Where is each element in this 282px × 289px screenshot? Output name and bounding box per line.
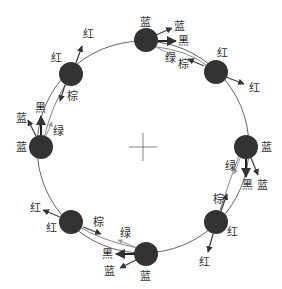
arrow-label: 绿 bbox=[53, 124, 64, 138]
node-n1: 蓝 蓝 黑 绿 棕 bbox=[134, 16, 189, 71]
arrow-label: 绿 bbox=[225, 159, 236, 173]
node-n3-dot bbox=[234, 135, 258, 159]
diagram-canvas: 蓝 蓝 黑 绿 棕 红 红 蓝 绿 黑 蓝 红 棕 红 蓝 bbox=[0, 0, 282, 289]
node-n4-label: 红 bbox=[227, 226, 238, 239]
arrow-label: 红 bbox=[83, 28, 94, 41]
arrow-label: 红 bbox=[249, 82, 260, 95]
arrow-label: 黑 bbox=[242, 179, 253, 192]
node-n8-dot bbox=[59, 62, 83, 86]
arrow-label: 蓝 bbox=[257, 179, 268, 192]
arrow-label: 红 bbox=[199, 256, 210, 269]
node-n6-dot bbox=[59, 210, 83, 234]
arrow-label: 棕 bbox=[213, 192, 224, 206]
arrow-icon bbox=[118, 240, 135, 247]
arrow-label: 棕 bbox=[67, 89, 78, 103]
node-n4-dot bbox=[204, 210, 228, 234]
arrow-icon bbox=[208, 234, 213, 252]
arrow-label: 黑 bbox=[102, 248, 113, 261]
arrow-label: 绿 bbox=[165, 51, 176, 65]
node-n3-label: 蓝 bbox=[261, 141, 272, 154]
arrow-label: 棕 bbox=[178, 57, 189, 71]
center-crosshair-icon bbox=[129, 133, 157, 161]
arrow-icon bbox=[226, 77, 244, 84]
arrow-label: 红 bbox=[30, 202, 41, 215]
arrow-icon bbox=[28, 120, 36, 136]
arrow-icon bbox=[188, 59, 204, 66]
node-n5: 蓝 黑 蓝 绿 bbox=[102, 226, 158, 283]
node-n5-label: 蓝 bbox=[140, 270, 151, 283]
node-n2-dot bbox=[204, 60, 228, 84]
arrow-icon bbox=[156, 28, 172, 35]
arrow-icon bbox=[251, 158, 258, 175]
node-n2: 红 红 bbox=[188, 47, 260, 95]
node-n6: 红 红 棕 bbox=[30, 202, 104, 235]
arrow-label: 黑 bbox=[178, 35, 189, 48]
node-n7: 蓝 蓝 黑 绿 bbox=[16, 102, 64, 159]
node-n6-label: 红 bbox=[46, 222, 57, 235]
arrow-label: 黑 bbox=[35, 102, 46, 115]
arrow-label: 棕 bbox=[93, 215, 104, 229]
node-n5-dot bbox=[134, 242, 158, 266]
arrow-label: 绿 bbox=[120, 226, 131, 240]
node-n7-label: 蓝 bbox=[16, 141, 27, 154]
arrow-icon bbox=[120, 260, 136, 268]
arrow-label: 蓝 bbox=[16, 112, 27, 125]
node-n1-dot bbox=[134, 28, 158, 52]
node-n2-label: 红 bbox=[217, 47, 228, 60]
node-n7-dot bbox=[29, 135, 53, 159]
arrow-label: 蓝 bbox=[174, 20, 185, 33]
node-n8-label: 红 bbox=[51, 52, 62, 65]
node-n1-label: 蓝 bbox=[140, 16, 151, 29]
node-n3: 蓝 绿 黑 蓝 bbox=[225, 135, 272, 192]
arrow-icon bbox=[46, 122, 52, 136]
node-n8: 红 红 棕 bbox=[51, 28, 94, 103]
arrow-icon bbox=[43, 210, 60, 217]
ring-diagram: 蓝 蓝 黑 绿 棕 红 红 蓝 绿 黑 蓝 红 棕 红 蓝 bbox=[0, 0, 282, 289]
arrow-label: 蓝 bbox=[104, 265, 115, 278]
